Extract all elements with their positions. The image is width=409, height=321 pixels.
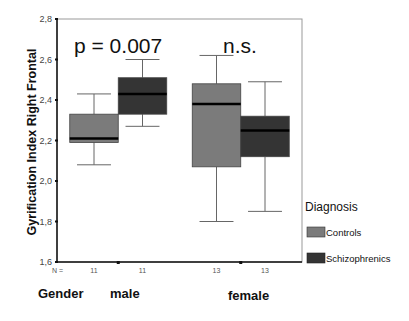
y-tick-label: 2,0 xyxy=(39,176,52,186)
n-count-label: 11 xyxy=(90,267,97,274)
legend-swatch-controls xyxy=(307,227,325,237)
box-controls-female: 13 xyxy=(192,55,241,274)
box-iqr xyxy=(192,84,241,167)
chart: 1,61,82,02,22,42,62,8 11111313 Gyrificat… xyxy=(0,0,409,321)
box-schizophrenics-male: 11 xyxy=(118,60,167,275)
n-count-label: 13 xyxy=(213,267,221,274)
x-axis-label: Gender xyxy=(38,286,84,301)
legend-swatch-schizophrenics xyxy=(307,253,325,263)
box-iqr xyxy=(241,116,290,157)
legend-label-schizophrenics: Schizophrenics xyxy=(326,253,391,264)
category-label-male: male xyxy=(110,286,140,301)
y-tick-label: 2,6 xyxy=(39,55,52,65)
box-schizophrenics-female: 13 xyxy=(241,82,290,274)
y-tick-label: 1,8 xyxy=(39,217,52,227)
y-tick-label: 1,6 xyxy=(39,257,52,267)
annotation-ns: n.s. xyxy=(223,34,257,57)
x-category-tick xyxy=(117,261,120,264)
legend: Diagnosis Controls Schizophrenics xyxy=(305,200,391,264)
y-tick-label: 2,8 xyxy=(39,14,52,24)
y-tick-label: 2,2 xyxy=(39,136,52,146)
category-label-female: female xyxy=(228,288,269,303)
box-iqr xyxy=(118,78,167,114)
n-count-label: 11 xyxy=(139,267,146,274)
x-category-tick xyxy=(239,261,242,264)
legend-title: Diagnosis xyxy=(305,200,358,214)
y-tick-label: 2,4 xyxy=(39,95,52,105)
annotation-p-value: p = 0.007 xyxy=(74,34,162,57)
y-axis-label: Gyrification Index Right Frontal xyxy=(25,49,39,236)
y-ticks: 1,61,82,02,22,42,62,8 xyxy=(39,14,58,267)
box-controls-male: 11 xyxy=(70,94,119,274)
boxes: 11111313 xyxy=(70,55,290,274)
legend-label-controls: Controls xyxy=(326,227,362,238)
n-count-label: 13 xyxy=(261,267,269,274)
n-prefix-label: N = xyxy=(52,267,63,274)
